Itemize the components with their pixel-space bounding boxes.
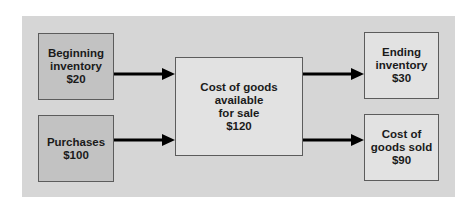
arrow-purchases-to-available bbox=[114, 134, 175, 146]
flow-arrows bbox=[0, 0, 475, 203]
arrow-beginning-to-available bbox=[114, 68, 175, 80]
arrow-available-to-ending bbox=[303, 68, 364, 80]
arrow-available-to-cogs bbox=[303, 134, 364, 146]
